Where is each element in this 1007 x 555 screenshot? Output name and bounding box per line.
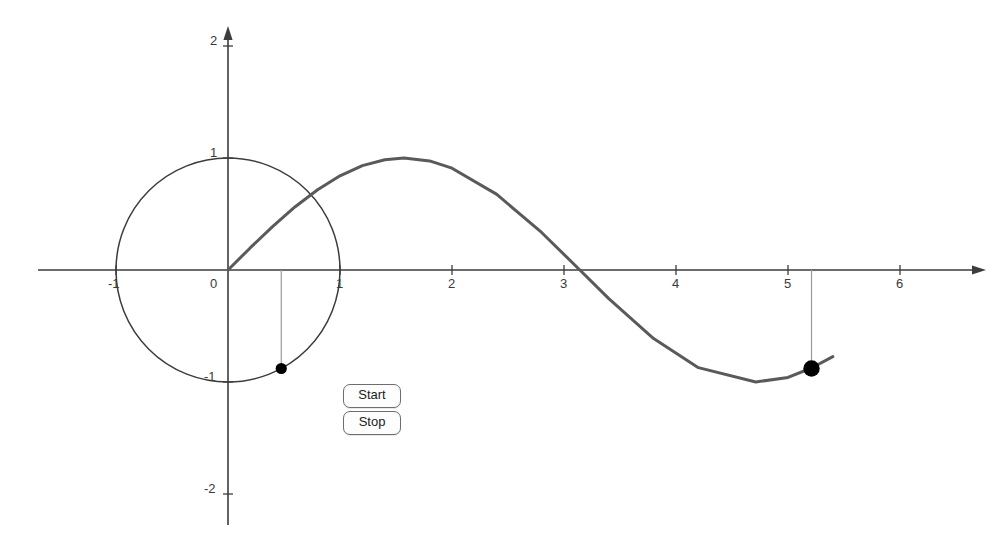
x-tick-label-3: 3 [560, 277, 567, 290]
x-tick-label-5: 5 [784, 277, 791, 290]
circle-point-marker[interactable] [276, 363, 287, 374]
x-tick-label-2: 2 [448, 277, 455, 290]
x-tick-label-origin: 0 [210, 277, 217, 290]
y-tick-label-neg1: -1 [204, 370, 216, 383]
y-tick-label-2: 2 [210, 34, 217, 47]
sine-unit-circle-animation-canvas: -1 0 1 2 3 4 5 6 2 1 -1 -2 Start Stop [0, 0, 1007, 555]
sine-point-marker[interactable] [803, 360, 819, 376]
x-tick-label-neg1: -1 [108, 277, 120, 290]
x-tick-label-1: 1 [336, 277, 343, 290]
x-axis [38, 265, 986, 275]
y-tick-label-1: 1 [210, 146, 217, 159]
start-button[interactable]: Start [343, 384, 401, 408]
y-axis [223, 26, 233, 525]
x-tick-label-6: 6 [896, 277, 903, 290]
x-tick-label-4: 4 [672, 277, 679, 290]
stop-button[interactable]: Stop [343, 411, 401, 435]
y-tick-label-neg2: -2 [204, 482, 216, 495]
plot-area [0, 0, 1007, 555]
animation-controls: Start Stop [343, 384, 401, 435]
